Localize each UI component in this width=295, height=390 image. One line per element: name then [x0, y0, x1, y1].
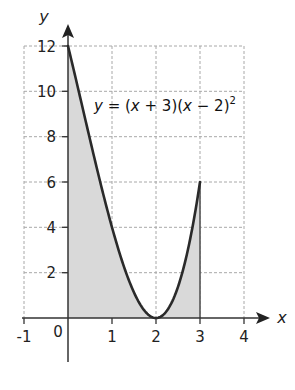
equation-label: y = (x + 3)(x − 2)2 [93, 95, 236, 115]
x-tick-label: -1 [17, 328, 32, 346]
x-tick-label: 1 [107, 328, 117, 346]
y-tick-label: 6 [46, 174, 56, 192]
y-tick-label: 4 [46, 219, 56, 237]
chart: -1 1 2 3 4 0 12 10 8 6 4 2 y x y = (x + … [0, 0, 295, 390]
y-tick-label: 10 [37, 83, 56, 101]
y-tick-label: 12 [37, 38, 56, 56]
y-tick-label: 8 [46, 128, 56, 146]
x-axis-label: x [276, 308, 287, 327]
x-tick-label: 4 [239, 328, 249, 346]
x-tick-label: 3 [195, 328, 205, 346]
x-tick-label: 2 [151, 328, 161, 346]
ticks [24, 46, 244, 324]
grid [24, 46, 244, 318]
origin-label: 0 [53, 323, 63, 341]
y-axis-label: y [38, 7, 49, 26]
y-tick-label: 2 [46, 264, 56, 282]
